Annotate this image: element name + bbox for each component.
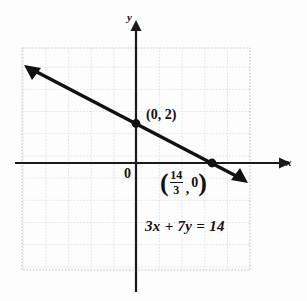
- open-paren: (: [160, 172, 169, 193]
- y-intercept-label: (0, 2): [146, 108, 176, 122]
- point-marker-y-intercept: [132, 119, 141, 128]
- equation-label: 3x + 7y = 14: [145, 219, 225, 234]
- graph-figure: y x 0 (0, 2) ( 14 3 , 0 ) 3x + 7y = 14: [0, 0, 307, 301]
- fraction-14-over-3: 14 3: [169, 169, 184, 196]
- coordinate-y-value: 0: [191, 176, 198, 190]
- origin-label: 0: [124, 167, 131, 181]
- coordinate-comma: ,: [184, 182, 192, 196]
- x-intercept-label: ( 14 3 , 0 ): [160, 169, 207, 196]
- fraction-numerator: 14: [170, 169, 182, 181]
- point-marker-x-intercept: [208, 159, 217, 168]
- close-paren: ): [198, 172, 207, 193]
- y-axis-label: y: [127, 12, 132, 23]
- fraction-denominator: 3: [173, 184, 179, 196]
- coordinate-plane: [0, 0, 307, 301]
- x-axis-label: x: [286, 157, 292, 168]
